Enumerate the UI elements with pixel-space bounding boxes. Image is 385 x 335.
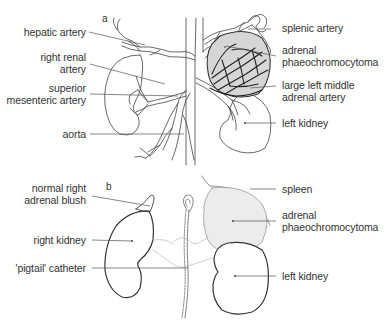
label-large-left-middle-adrenal-artery: large left middle adrenal artery — [282, 79, 354, 103]
label-superior-mesenteric-artery: superior mesenteric artery — [7, 82, 86, 106]
label-splenic-artery: splenic artery — [282, 22, 343, 34]
label-aorta: aorta — [63, 128, 86, 140]
label-right-renal-artery: right renal artery — [40, 51, 86, 75]
panel-b-drawing — [105, 176, 270, 318]
label-normal-right-adrenal-blush: normal right adrenal blush — [24, 182, 86, 206]
panel-b-letter: b — [106, 181, 112, 192]
label-spleen: spleen — [282, 183, 312, 195]
label-hepatic-artery: hepatic artery — [24, 26, 86, 38]
label-left-kidney-a: left kidney — [282, 117, 328, 129]
label-left-kidney-b: left kidney — [282, 270, 328, 282]
figure: a b hepatic artery right renal artery su… — [0, 0, 385, 335]
label-pigtail-catheter: 'pigtail' catheter — [15, 262, 86, 274]
label-adrenal-phaeochromocytoma-b: adrenal phaeochromocytoma — [282, 209, 378, 233]
label-right-kidney-b: right kidney — [34, 234, 87, 246]
panel-a-letter: a — [102, 13, 108, 24]
label-adrenal-phaeochromocytoma-a: adrenal phaeochromocytoma — [282, 44, 378, 68]
